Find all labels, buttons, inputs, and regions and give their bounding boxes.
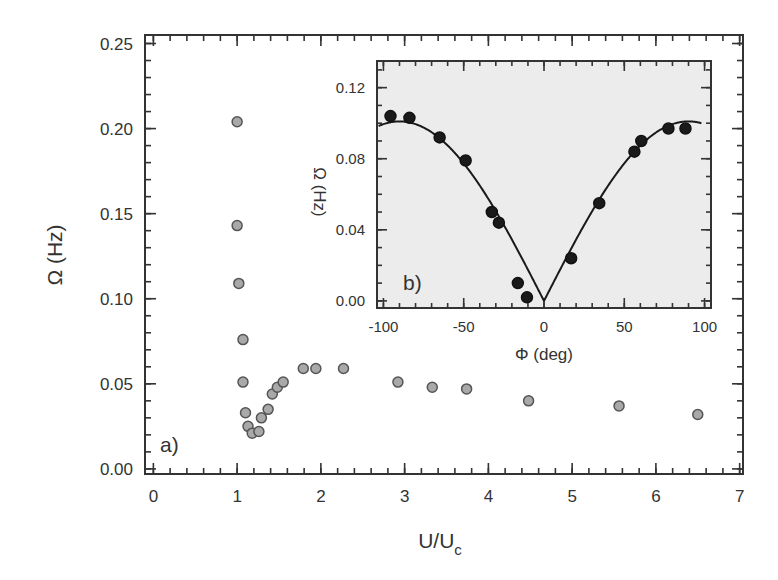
data-point: [629, 146, 640, 157]
y-tick-label: 0.25: [100, 35, 133, 54]
data-point: [278, 377, 288, 387]
data-point: [427, 382, 437, 392]
x-tick-label: 0: [149, 487, 158, 506]
x-tick-label: -50: [453, 318, 475, 335]
data-point: [385, 111, 396, 122]
inset-y-axis-label: Ω (Hz): [310, 167, 329, 217]
data-point: [566, 253, 577, 264]
data-point: [238, 377, 248, 387]
x-tick-label: 7: [735, 487, 744, 506]
data-point: [298, 364, 308, 374]
data-point: [680, 123, 691, 134]
inset-plot-frame: [377, 61, 711, 308]
x-tick-label: 1: [232, 487, 241, 506]
data-point: [594, 198, 605, 209]
data-point: [232, 117, 242, 127]
data-point: [241, 408, 251, 418]
y-tick-label: 0.20: [100, 120, 133, 139]
data-point: [486, 207, 497, 218]
x-tick-label: 2: [316, 487, 325, 506]
data-point: [663, 123, 674, 134]
data-point: [234, 278, 244, 288]
x-tick-label: 5: [567, 487, 576, 506]
y-tick-label: 0.04: [336, 221, 365, 238]
data-point: [393, 377, 403, 387]
data-point: [493, 217, 504, 228]
data-point: [338, 364, 348, 374]
x-tick-label: 0: [540, 318, 548, 335]
x-tick-label: 3: [400, 487, 409, 506]
data-point: [256, 413, 266, 423]
y-tick-label: 0.10: [100, 290, 133, 309]
data-point: [232, 221, 242, 231]
x-axis-label: U/Uc: [418, 529, 462, 558]
y-tick-label: 0.00: [100, 460, 133, 479]
figure: 012345670.000.050.100.150.200.25 a) U/Uc…: [0, 0, 778, 580]
x-tick-label: 6: [651, 487, 660, 506]
data-point: [524, 396, 534, 406]
y-tick-label: 0.00: [336, 292, 365, 309]
panel-label-a: a): [160, 433, 179, 456]
y-tick-label: 0.12: [336, 79, 365, 96]
data-point: [462, 384, 472, 394]
data-point: [263, 404, 273, 414]
y-tick-label: 0.05: [100, 375, 133, 394]
data-point: [614, 401, 624, 411]
data-point: [693, 409, 703, 419]
x-tick-label: 4: [484, 487, 493, 506]
x-tick-label: 50: [616, 318, 633, 335]
y-tick-label: 0.08: [336, 150, 365, 167]
data-point: [512, 278, 523, 289]
data-point: [254, 426, 264, 436]
data-point: [311, 364, 321, 374]
data-point: [404, 112, 415, 123]
data-point: [238, 335, 248, 345]
x-tick-label: 100: [692, 318, 717, 335]
panel-label-b: b): [403, 271, 422, 294]
inset-x-axis-label: Φ (deg): [515, 345, 573, 364]
y-axis-label: Ω (Hz): [43, 224, 66, 285]
x-tick-label: -100: [368, 318, 398, 335]
data-point: [434, 132, 445, 143]
y-tick-label: 0.15: [100, 205, 133, 224]
data-point: [521, 292, 532, 303]
data-point: [460, 155, 471, 166]
data-point: [636, 135, 647, 146]
